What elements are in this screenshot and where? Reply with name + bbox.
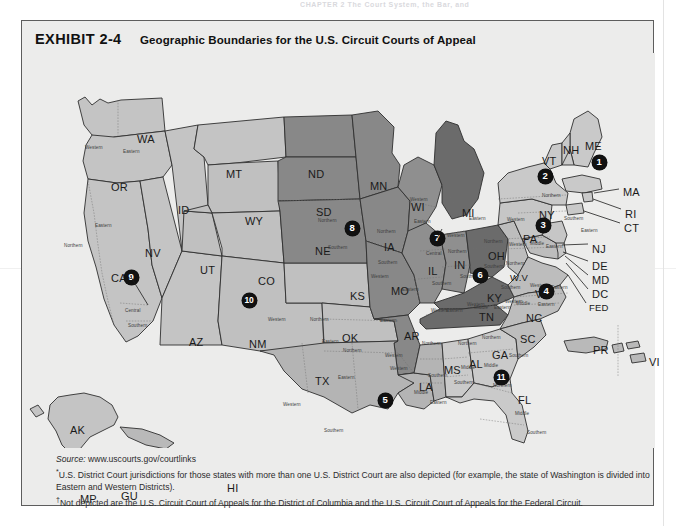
district-label: Northern bbox=[482, 335, 501, 340]
state-label-dc: DC bbox=[592, 288, 608, 300]
district-label: Middle bbox=[530, 241, 544, 246]
state-label-ar: AR bbox=[404, 330, 420, 342]
district-label: Eastern bbox=[338, 375, 355, 380]
state-label-sd: SD bbox=[316, 206, 332, 218]
circuit-marker-4[interactable]: 4 bbox=[539, 284, 554, 299]
source-value: www.uscourts.gov/courtlinks bbox=[88, 454, 196, 464]
district-label: Southern bbox=[564, 216, 583, 221]
footnote-2: †Not depicted are the U.S. Circuit Court… bbox=[56, 494, 656, 509]
district-label: Southern bbox=[378, 260, 397, 265]
district-label: Southern bbox=[432, 281, 451, 286]
district-label: Northern bbox=[542, 193, 561, 198]
district-label: Eastern bbox=[380, 318, 397, 323]
exhibit-title-row: EXHIBIT 2-4 Geographic Boundaries for th… bbox=[35, 30, 476, 48]
district-label: Southern bbox=[509, 353, 528, 358]
district-label: Southern bbox=[501, 285, 520, 290]
source-line: Source: www.uscourts.gov/courtlinks bbox=[56, 453, 656, 466]
district-label: Northern bbox=[448, 249, 467, 254]
district-label: Southern bbox=[484, 264, 503, 269]
circuit-marker-11[interactable]: 11 bbox=[494, 370, 509, 385]
circuit-marker-6[interactable]: 6 bbox=[473, 268, 488, 283]
state-label-wa: WA bbox=[137, 133, 155, 145]
state-label-or: OR bbox=[111, 181, 128, 193]
state-label-md: MD bbox=[592, 274, 610, 286]
state-label-nc: NC bbox=[526, 312, 542, 324]
district-label: Southern bbox=[428, 373, 447, 378]
state-label-pr: PR bbox=[593, 344, 609, 356]
circuit-marker-2[interactable]: 2 bbox=[538, 169, 553, 184]
circuit-marker-8[interactable]: 8 bbox=[345, 221, 360, 236]
state-label-wv: W.V bbox=[510, 272, 528, 283]
district-label: Southern bbox=[324, 428, 343, 433]
district-label: Eastern bbox=[546, 244, 563, 249]
district-label: Northern bbox=[318, 218, 337, 223]
state-label-ma: MA bbox=[623, 186, 640, 198]
district-label: Eastern bbox=[123, 149, 140, 154]
state-label-de: DE bbox=[592, 260, 608, 272]
district-label: Southern bbox=[527, 430, 546, 435]
district-label: Eastern bbox=[430, 400, 447, 405]
circuit-marker-3[interactable]: 3 bbox=[536, 218, 551, 233]
district-label: Western bbox=[390, 366, 408, 371]
district-label: Southern bbox=[454, 380, 473, 385]
state-label-ky: KY bbox=[487, 292, 502, 304]
district-label: Western bbox=[268, 317, 286, 322]
state-label-nd: ND bbox=[308, 168, 324, 180]
district-label: Middle bbox=[414, 390, 428, 395]
state-label-oh: OH bbox=[488, 250, 505, 262]
circuit-marker-1[interactable]: 1 bbox=[592, 155, 607, 170]
state-label-fl: FL bbox=[518, 394, 531, 406]
state-label-ak: AK bbox=[70, 424, 85, 436]
state-label-ia: IA bbox=[384, 241, 395, 253]
district-label: Northern bbox=[64, 243, 83, 248]
district-label: Northern bbox=[310, 317, 329, 322]
state-label-me: ME bbox=[585, 140, 602, 152]
circuit-marker-5[interactable]: 5 bbox=[378, 393, 393, 408]
state-label-az: AZ bbox=[189, 336, 203, 348]
district-label: Middle bbox=[461, 365, 475, 370]
state-label-mn: MN bbox=[370, 180, 388, 192]
district-label: Northern bbox=[343, 348, 362, 353]
district-label: Western bbox=[283, 402, 301, 407]
district-label: Middle bbox=[484, 363, 498, 368]
state-label-vi: VI bbox=[649, 356, 660, 368]
district-label: Eastern bbox=[538, 302, 555, 307]
district-label: Eastern bbox=[322, 339, 339, 344]
district-label: Western bbox=[447, 233, 465, 238]
state-label-sc: SC bbox=[520, 333, 536, 345]
circuit-marker-10[interactable]: 10 bbox=[242, 293, 257, 308]
us-circuit-map: .s{stroke:#2f2f2f;stroke-width:.9;stroke… bbox=[22, 53, 655, 448]
map-svg: .s{stroke:#2f2f2f;stroke-width:.9;stroke… bbox=[22, 53, 655, 448]
district-label: Eastern bbox=[469, 216, 486, 221]
district-label: Middle bbox=[515, 411, 529, 416]
district-label: Middle bbox=[516, 301, 530, 306]
district-label: Western bbox=[410, 197, 428, 202]
district-label: Eastern bbox=[402, 287, 419, 292]
district-label: Central bbox=[426, 251, 442, 256]
district-label: Eastern bbox=[95, 223, 112, 228]
state-label-id: ID bbox=[178, 204, 189, 216]
district-label: Northern bbox=[377, 229, 396, 234]
circuit-marker-9[interactable]: 9 bbox=[124, 270, 139, 285]
district-label: Southern bbox=[128, 323, 147, 328]
state-label-nm: NM bbox=[249, 338, 267, 350]
state-label-ga: GA bbox=[492, 349, 508, 361]
state-label-ct: CT bbox=[624, 222, 639, 234]
district-label: Western bbox=[385, 353, 403, 358]
exhibit-notes: Source: www.uscourts.gov/courtlinks *U.S… bbox=[56, 453, 656, 509]
circuit-marker-7[interactable]: 7 bbox=[430, 231, 445, 246]
state-label-tx: TX bbox=[315, 375, 329, 387]
state-label-il: IL bbox=[428, 265, 438, 277]
district-label: Western bbox=[431, 308, 449, 313]
state-label-wi: WI bbox=[411, 201, 425, 213]
district-label: Northern bbox=[422, 341, 441, 346]
district-label: Eastern bbox=[581, 228, 598, 233]
district-label: Southern bbox=[328, 245, 347, 250]
district-label: Middle bbox=[474, 305, 488, 310]
state-label-wy: WY bbox=[245, 215, 263, 227]
page-canvas: CHAPTER 2 The Court System, the Bar, and… bbox=[0, 0, 676, 526]
exhibit-panel: EXHIBIT 2-4 Geographic Boundaries for th… bbox=[21, 20, 654, 506]
district-label: Northern bbox=[458, 341, 477, 346]
district-label: Western bbox=[509, 242, 527, 247]
district-label: Eastern bbox=[414, 219, 431, 224]
